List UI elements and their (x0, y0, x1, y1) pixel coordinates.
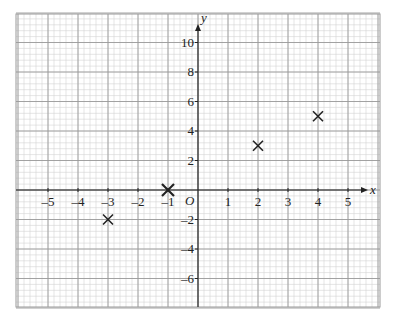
y-tick-label: 10 (181, 35, 194, 50)
x-tick-label: –3 (101, 194, 115, 209)
x-tick-label: –4 (71, 194, 86, 209)
x-axis-label: x (369, 182, 376, 197)
x-tick-label: 3 (285, 194, 292, 209)
origin-label: O (185, 193, 195, 208)
y-tick-label: –2 (180, 212, 194, 227)
y-tick-label: 8 (188, 64, 195, 79)
y-tick-label: 2 (188, 153, 195, 168)
x-tick-label: 5 (345, 194, 352, 209)
scatter-plot: xyO –5–4–3–2–112345108642–2–4–6 (0, 0, 393, 321)
x-tick-label: 2 (255, 194, 262, 209)
y-tick-label: 6 (188, 94, 195, 109)
y-tick-label: 4 (188, 123, 195, 138)
y-tick-label: –6 (180, 271, 195, 286)
y-axis-label: y (199, 10, 207, 25)
x-tick-label: –2 (131, 194, 145, 209)
x-tick-label: –5 (41, 194, 55, 209)
x-tick-label: 4 (315, 194, 322, 209)
x-tick-label: 1 (225, 194, 232, 209)
y-tick-label: –4 (180, 241, 195, 256)
